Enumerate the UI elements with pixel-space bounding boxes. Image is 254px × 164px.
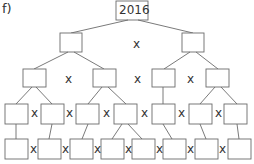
times-sign: x (134, 72, 141, 86)
times-sign: x (178, 106, 185, 120)
times-sign: x (187, 72, 194, 86)
times-sign: x (65, 72, 72, 86)
times-sign: x (187, 142, 194, 156)
root-value: 2016 (119, 3, 150, 17)
times-sign: x (30, 142, 37, 156)
times-sign: x (66, 106, 73, 120)
times-sign: x (125, 142, 132, 156)
times-sign: x (62, 142, 69, 156)
times-sign: x (219, 142, 226, 156)
times-sign: x (215, 106, 222, 120)
times-sign: x (156, 142, 163, 156)
times-sign: x (94, 142, 101, 156)
times-sign: x (103, 106, 110, 120)
factor-tree (0, 0, 254, 164)
times-sign: x (141, 106, 148, 120)
times-sign: x (133, 37, 140, 51)
times-sign: x (31, 106, 38, 120)
